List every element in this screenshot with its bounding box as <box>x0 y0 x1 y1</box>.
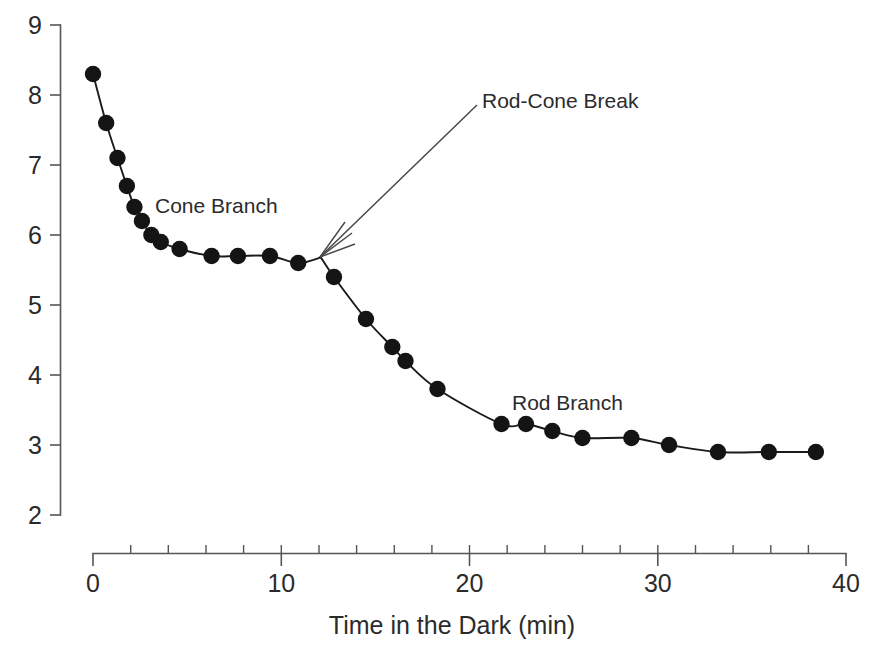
data-point <box>109 150 125 166</box>
data-point <box>710 444 726 460</box>
y-tick-label-9: 9 <box>28 11 42 39</box>
data-point <box>98 115 114 131</box>
x-tick-label-0: 0 <box>86 569 100 597</box>
x-axis-major-ticks <box>93 554 846 567</box>
data-point <box>230 248 246 264</box>
data-point <box>493 416 509 432</box>
data-point <box>85 66 101 82</box>
arrowhead-barb-middle <box>320 233 352 257</box>
cropped-top-text <box>0 0 872 8</box>
data-point <box>126 199 142 215</box>
data-point <box>661 437 677 453</box>
rod-cone-break-arrow <box>320 105 477 257</box>
series-cone-branch <box>85 66 321 271</box>
data-point <box>171 241 187 257</box>
data-point <box>574 430 590 446</box>
data-point <box>326 269 342 285</box>
data-point <box>544 423 560 439</box>
data-point <box>384 339 400 355</box>
rod-cone-break-label: Rod-Cone Break <box>482 89 639 112</box>
data-point <box>119 178 135 194</box>
x-tick-label-40: 40 <box>832 569 860 597</box>
x-tick-label-10: 10 <box>267 569 295 597</box>
data-point <box>518 416 534 432</box>
y-tick-label-6: 6 <box>28 221 42 249</box>
plot-area <box>85 66 824 460</box>
fit-curve-cone <box>93 74 321 263</box>
y-tick-label-4: 4 <box>28 361 42 389</box>
data-point <box>290 255 306 271</box>
y-tick-label-5: 5 <box>28 291 42 319</box>
data-point <box>262 248 278 264</box>
data-point <box>761 444 777 460</box>
data-point <box>623 430 639 446</box>
annotation-layer: Rod-Cone Break Cone Branch Rod Branch <box>155 89 639 414</box>
dark-adaptation-chart: 9 8 7 6 5 4 3 2 <box>0 0 872 662</box>
x-tick-label-20: 20 <box>456 569 484 597</box>
data-point <box>153 234 169 250</box>
y-tick-label-2: 2 <box>28 501 42 529</box>
series-rod-branch <box>321 257 824 460</box>
data-point <box>203 248 219 264</box>
x-axis-title: Time in the Dark (min) <box>329 611 575 639</box>
y-axis-tick-labels: 9 8 7 6 5 4 3 2 <box>28 11 42 529</box>
data-point <box>134 213 150 229</box>
y-tick-label-7: 7 <box>28 151 42 179</box>
data-point <box>808 444 824 460</box>
y-axis: 9 8 7 6 5 4 3 2 <box>28 11 60 529</box>
y-tick-label-3: 3 <box>28 431 42 459</box>
x-axis: 0 10 20 30 40 Time in the Dark (min) <box>86 545 860 639</box>
x-tick-label-30: 30 <box>644 569 672 597</box>
data-point <box>397 353 413 369</box>
y-tick-label-8: 8 <box>28 81 42 109</box>
rod-cone-break-leader-line <box>320 105 477 257</box>
rod-branch-label: Rod Branch <box>512 391 623 414</box>
fit-curve-rod <box>321 257 816 452</box>
x-axis-minor-ticks <box>131 545 809 554</box>
chart-canvas: 9 8 7 6 5 4 3 2 <box>0 0 872 662</box>
data-point <box>358 311 374 327</box>
y-axis-ticks <box>50 25 61 515</box>
cone-branch-label: Cone Branch <box>155 194 278 217</box>
x-axis-tick-labels: 0 10 20 30 40 <box>86 569 860 597</box>
data-point <box>429 381 445 397</box>
